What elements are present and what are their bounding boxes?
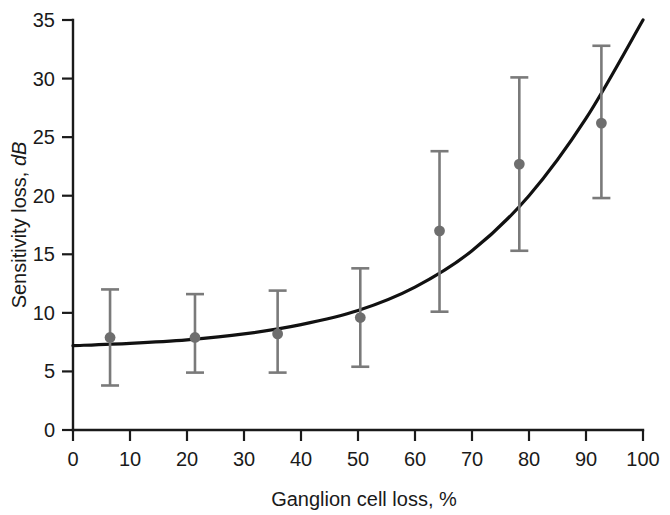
chart-background (0, 0, 670, 515)
data-point-marker (272, 329, 283, 340)
x-tick-label: 20 (176, 448, 198, 470)
x-tick-label: 60 (404, 448, 426, 470)
y-tick-label: 35 (33, 9, 55, 31)
data-point-marker (190, 332, 201, 343)
x-tick-label: 100 (626, 448, 659, 470)
y-tick-label: 30 (33, 68, 55, 90)
chart-figure: 05101520253035 0102030405060708090100 Ga… (0, 0, 670, 515)
y-tick-label: 20 (33, 185, 55, 207)
x-tick-label: 80 (518, 448, 540, 470)
y-tick-label: 0 (44, 419, 55, 441)
x-tick-label: 50 (347, 448, 369, 470)
y-axis-title: Sensitivity loss, dB (8, 142, 30, 309)
x-tick-label: 10 (119, 448, 141, 470)
x-axis-title: Ganglion cell loss, % (271, 488, 457, 510)
y-tick-label: 5 (44, 360, 55, 382)
x-tick-label: 0 (67, 448, 78, 470)
x-tick-label: 90 (575, 448, 597, 470)
data-point-marker (596, 118, 607, 129)
data-point-marker (105, 332, 116, 343)
data-point-marker (434, 225, 445, 236)
sensitivity-loss-vs-ganglion-cell-loss-chart: 05101520253035 0102030405060708090100 Ga… (0, 0, 670, 515)
x-tick-label: 40 (290, 448, 312, 470)
y-tick-label: 25 (33, 126, 55, 148)
y-tick-label: 10 (33, 302, 55, 324)
x-tick-label: 70 (461, 448, 483, 470)
data-point-marker (355, 312, 366, 323)
x-tick-label: 30 (233, 448, 255, 470)
y-tick-label: 15 (33, 243, 55, 265)
data-point-marker (514, 159, 525, 170)
